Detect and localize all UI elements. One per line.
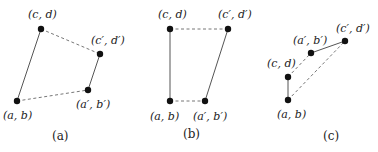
point-apbp xyxy=(85,87,91,93)
panel-a: (c, d) (c′, d′) (a, b) (a′, b′) (a) xyxy=(3,8,125,143)
label-cd: (c, d) xyxy=(267,57,296,70)
panel-b: (c, d) (c′, d′) (a, b) (a′, b′) (b) xyxy=(150,8,252,141)
point-ab xyxy=(14,98,20,104)
label-cpdp: (c′, d′) xyxy=(91,34,125,47)
label-cd: (c, d) xyxy=(28,8,57,21)
point-cpdp xyxy=(97,51,103,57)
point-cd xyxy=(167,26,173,32)
label-apbp: (a′, b′) xyxy=(293,34,327,47)
edge-ab-cd xyxy=(17,29,41,101)
point-cd xyxy=(285,74,291,80)
point-cpdp xyxy=(225,26,231,32)
caption-b: (b) xyxy=(183,127,200,141)
point-ab xyxy=(167,98,173,104)
point-cpdp xyxy=(342,38,348,44)
point-apbp xyxy=(308,50,314,56)
panel-c: (c′, d′) (a′, b′) (c, d) (a, b) (c) xyxy=(267,22,370,143)
diagram-canvas: (c, d) (c′, d′) (a, b) (a′, b′) (a) (c, … xyxy=(0,0,378,152)
point-apbp xyxy=(202,98,208,104)
label-cpdp: (c′, d′) xyxy=(218,8,252,21)
label-cd: (c, d) xyxy=(158,8,187,21)
label-ab: (a, b) xyxy=(277,108,306,121)
caption-a: (a) xyxy=(52,129,69,143)
label-cpdp: (c′, d′) xyxy=(336,22,370,35)
label-ab: (a, b) xyxy=(3,109,32,122)
dashed-edge-ab-cpdp xyxy=(288,41,345,100)
edge-apbp-cpdp xyxy=(88,54,100,90)
label-apbp: (a′, b′) xyxy=(76,98,110,111)
caption-c: (c) xyxy=(323,129,339,143)
point-cd xyxy=(38,26,44,32)
edge-apbp-cpdp xyxy=(205,29,228,101)
label-apbp: (a′, b′) xyxy=(193,110,227,123)
label-ab: (a, b) xyxy=(150,110,179,123)
point-ab xyxy=(285,97,291,103)
